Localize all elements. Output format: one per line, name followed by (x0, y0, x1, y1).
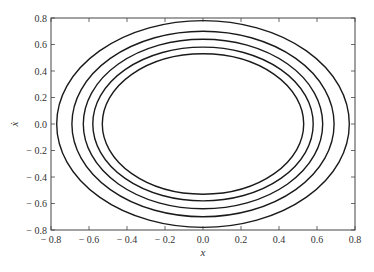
orbit-curve-1 (57, 21, 350, 228)
x-tick-label: 0.2 (235, 234, 248, 245)
y-tick-label: − 0.4 (26, 172, 47, 183)
plot-area (51, 18, 355, 230)
x-tick-label: 0.6 (311, 234, 324, 245)
y-tick-label: 0.4 (35, 66, 48, 77)
x-tick-label: 0.0 (197, 234, 210, 245)
x-tick-label: − 0.2 (155, 234, 176, 245)
orbit-curve-4 (93, 47, 313, 201)
x-tick-label: 0.8 (349, 234, 362, 245)
y-tick-label: − 0.8 (26, 225, 47, 236)
orbit-curve-3 (83, 39, 322, 209)
y-tick-label: 0.8 (35, 13, 48, 24)
x-tick-label: 0.4 (273, 234, 286, 245)
orbit-curve-2 (72, 31, 334, 217)
x-tick-label: − 0.6 (79, 234, 100, 245)
y-tick-label: 0.0 (35, 119, 48, 130)
y-tick-label: 0.6 (35, 39, 48, 50)
y-axis-label: ẋ (8, 121, 20, 127)
phase-portrait-chart: − 0.8− 0.6− 0.4− 0.20.00.20.40.60.8 0.80… (0, 0, 374, 272)
y-axis-ticks: 0.80.60.40.20.0− 0.2− 0.4− 0.6− 0.8 (26, 13, 355, 236)
plot-frame (51, 18, 355, 230)
y-tick-label: − 0.2 (26, 145, 47, 156)
y-tick-label: 0.2 (35, 92, 48, 103)
x-tick-label: − 0.8 (41, 234, 62, 245)
orbit-curve-5 (102, 54, 303, 194)
y-tick-label: − 0.6 (26, 198, 47, 209)
x-tick-label: − 0.4 (117, 234, 138, 245)
x-axis-label: x (200, 246, 206, 258)
orbits (57, 21, 350, 228)
